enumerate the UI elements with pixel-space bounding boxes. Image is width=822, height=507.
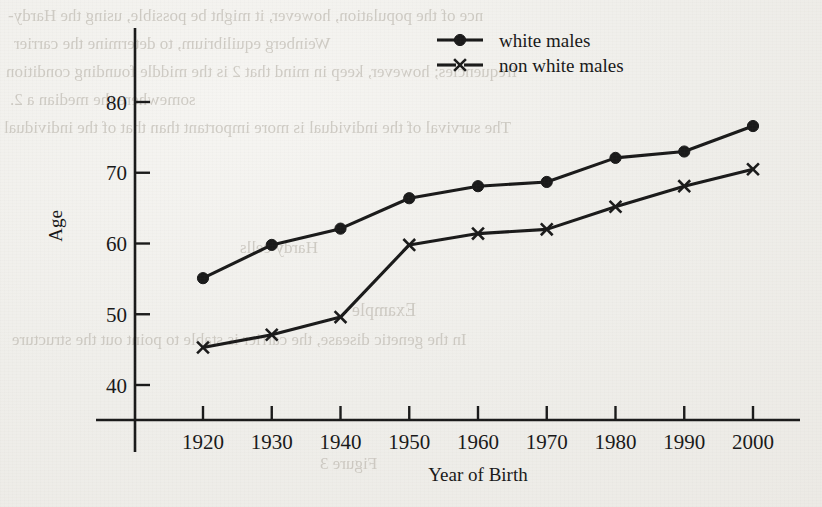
y-axis-tick-label: 60: [106, 232, 127, 256]
x-axis-tick-label: 1920: [182, 430, 224, 454]
legend-label: white males: [499, 30, 590, 51]
legend-entry: non white males: [437, 55, 624, 76]
x-axis-tick-label: 2000: [732, 430, 774, 454]
series-line: [203, 169, 753, 347]
x-axis-tick-label: 1940: [320, 430, 362, 454]
y-axis-title: Age: [45, 210, 66, 242]
series-line: [203, 126, 753, 278]
line-chart: 4050607080 19201930194019501960197019801…: [0, 0, 822, 507]
x-axis-tick-label: 1990: [663, 430, 705, 454]
data-point-marker: [404, 193, 415, 204]
data-point-marker: [541, 176, 552, 187]
x-axis-tick-label: 1930: [251, 430, 293, 454]
x-axis-ticks: [203, 406, 753, 420]
series-plot-markers: [197, 120, 759, 353]
y-axis-ticks: [135, 102, 150, 385]
chart-legend: white malesnon white males: [437, 30, 624, 76]
legend-marker: [454, 34, 465, 45]
data-point-marker: [472, 181, 483, 192]
y-axis-tick-label: 50: [106, 303, 127, 327]
x-axis-tick-labels: 192019301940195019601970198019902000: [182, 430, 774, 454]
x-axis-tick-label: 1960: [457, 430, 499, 454]
x-axis-tick-label: 1970: [526, 430, 568, 454]
x-axis-tick-label: 1980: [595, 430, 637, 454]
data-point-marker: [266, 239, 277, 250]
series-plot-lines: [203, 126, 753, 347]
data-point-marker: [335, 223, 346, 234]
y-axis-tick-label: 80: [106, 91, 127, 115]
y-axis-tick-label: 40: [106, 374, 127, 398]
legend-label: non white males: [499, 55, 624, 76]
y-axis-tick-label: 70: [106, 161, 127, 185]
legend-entry: white males: [437, 30, 590, 51]
x-axis-title: Year of Birth: [428, 464, 528, 485]
y-axis-tick-labels: 4050607080: [106, 91, 127, 398]
data-point-marker: [747, 120, 758, 131]
data-point-marker: [610, 152, 621, 163]
data-point-marker: [679, 146, 690, 157]
x-axis-tick-label: 1950: [388, 430, 430, 454]
data-point-marker: [197, 273, 208, 284]
figure-page: nce of the population, however, it might…: [0, 0, 822, 507]
